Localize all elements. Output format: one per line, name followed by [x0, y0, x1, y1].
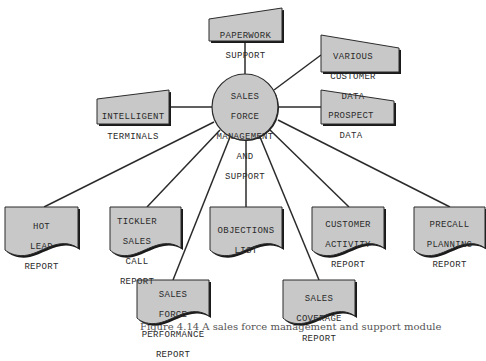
figure-caption: Figure 4.14 A sales force management and…: [140, 321, 380, 332]
output-sales-coverage-report: [283, 280, 357, 326]
input-paperwork-support: [209, 8, 284, 43]
coverage-line-3: REPORT: [283, 334, 355, 344]
output-hot-lead-report: [5, 207, 80, 258]
connector-customer-activity: [270, 130, 349, 207]
connector-hot-lead: [44, 122, 214, 207]
output-sales-force-performance-report: [137, 280, 211, 326]
output-objections-list: [210, 207, 284, 258]
connector-various-customer: [274, 55, 321, 90]
input-various-customer-data: [321, 35, 401, 74]
sfp-line-4: REPORT: [137, 350, 209, 360]
output-precall-planning-report: [414, 207, 486, 258]
input-intelligent-terminals: [97, 90, 171, 126]
output-tickler-sales-call-report: [110, 207, 183, 258]
input-prospect-data: [321, 90, 396, 126]
connector-tickler: [147, 130, 220, 207]
center-node: [212, 74, 279, 141]
output-customer-activity-report: [312, 207, 386, 258]
